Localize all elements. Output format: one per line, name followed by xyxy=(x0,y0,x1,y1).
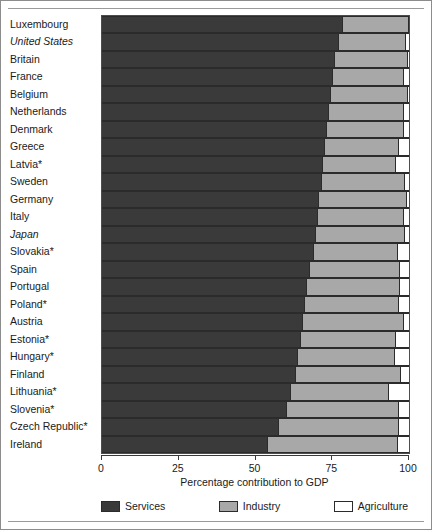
bar-segment-services[interactable] xyxy=(102,418,278,435)
bar-segment-services[interactable] xyxy=(102,261,309,278)
bar-segment-services[interactable] xyxy=(102,51,334,68)
bar-segment-industry[interactable] xyxy=(297,348,394,365)
bar-segment-agriculture[interactable] xyxy=(404,226,409,243)
bar-segment-industry[interactable] xyxy=(326,121,403,138)
bar-segment-industry[interactable] xyxy=(295,366,399,383)
bar-segment-industry[interactable] xyxy=(315,226,404,243)
bar-segment-industry[interactable] xyxy=(338,33,405,50)
bar-segment-industry[interactable] xyxy=(324,138,398,155)
bar-segment-agriculture[interactable] xyxy=(398,401,409,418)
bar-segment-industry[interactable] xyxy=(300,331,395,348)
bar-row[interactable] xyxy=(102,418,409,435)
bar-segment-agriculture[interactable] xyxy=(397,243,409,260)
bar-row[interactable] xyxy=(102,103,409,120)
bar-segment-services[interactable] xyxy=(102,278,306,295)
bar-row[interactable] xyxy=(102,366,409,383)
bar-segment-agriculture[interactable] xyxy=(398,296,409,313)
bar-row[interactable] xyxy=(102,51,409,68)
bar-segment-services[interactable] xyxy=(102,68,332,85)
bar-row[interactable] xyxy=(102,208,409,225)
bar-segment-agriculture[interactable] xyxy=(400,366,409,383)
bar-segment-services[interactable] xyxy=(102,348,297,365)
bar-segment-services[interactable] xyxy=(102,16,342,33)
bar-segment-agriculture[interactable] xyxy=(404,173,409,190)
bar-segment-services[interactable] xyxy=(102,156,322,173)
bar-segment-services[interactable] xyxy=(102,243,313,260)
bar-segment-agriculture[interactable] xyxy=(398,138,409,155)
bar-segment-agriculture[interactable] xyxy=(403,121,409,138)
bar-segment-industry[interactable] xyxy=(309,261,399,278)
bar-row[interactable] xyxy=(102,68,409,85)
bar-row[interactable] xyxy=(102,16,409,33)
bar-segment-industry[interactable] xyxy=(317,208,403,225)
bar-segment-services[interactable] xyxy=(102,313,302,330)
bar-segment-industry[interactable] xyxy=(278,418,397,435)
bar-segment-services[interactable] xyxy=(102,401,286,418)
bar-segment-agriculture[interactable] xyxy=(394,348,409,365)
bar-row[interactable] xyxy=(102,436,409,453)
bar-segment-services[interactable] xyxy=(102,191,318,208)
bar-segment-agriculture[interactable] xyxy=(407,51,409,68)
bar-row[interactable] xyxy=(102,156,409,173)
bar-row[interactable] xyxy=(102,278,409,295)
bar-segment-agriculture[interactable] xyxy=(399,278,409,295)
bar-row[interactable] xyxy=(102,191,409,208)
bar-row[interactable] xyxy=(102,348,409,365)
bar-segment-services[interactable] xyxy=(102,103,328,120)
bar-segment-agriculture[interactable] xyxy=(403,68,409,85)
bar-segment-agriculture[interactable] xyxy=(403,313,409,330)
bar-row[interactable] xyxy=(102,243,409,260)
bar-segment-agriculture[interactable] xyxy=(403,103,409,120)
bar-segment-agriculture[interactable] xyxy=(407,86,409,103)
bar-segment-services[interactable] xyxy=(102,331,300,348)
bar-row[interactable] xyxy=(102,383,409,400)
bar-segment-services[interactable] xyxy=(102,86,330,103)
bar-segment-agriculture[interactable] xyxy=(398,418,409,435)
bar-segment-agriculture[interactable] xyxy=(405,33,409,50)
bar-segment-industry[interactable] xyxy=(267,436,397,453)
bar-segment-services[interactable] xyxy=(102,208,317,225)
bar-segment-agriculture[interactable] xyxy=(395,156,409,173)
bar-segment-services[interactable] xyxy=(102,173,321,190)
bar-segment-industry[interactable] xyxy=(302,313,403,330)
bar-row[interactable] xyxy=(102,401,409,418)
bar-segment-agriculture[interactable] xyxy=(395,331,409,348)
bar-segment-services[interactable] xyxy=(102,436,267,453)
bar-segment-agriculture[interactable] xyxy=(397,436,409,453)
bar-segment-services[interactable] xyxy=(102,121,326,138)
bar-segment-services[interactable] xyxy=(102,33,338,50)
bar-row[interactable] xyxy=(102,121,409,138)
bar-segment-services[interactable] xyxy=(102,383,290,400)
bar-row[interactable] xyxy=(102,331,409,348)
bar-segment-industry[interactable] xyxy=(334,51,407,68)
bar-segment-agriculture[interactable] xyxy=(399,261,409,278)
bar-segment-services[interactable] xyxy=(102,366,295,383)
bar-row[interactable] xyxy=(102,296,409,313)
bar-segment-industry[interactable] xyxy=(330,86,407,103)
bar-row[interactable] xyxy=(102,313,409,330)
bar-segment-services[interactable] xyxy=(102,138,324,155)
bar-segment-industry[interactable] xyxy=(332,68,403,85)
bar-segment-industry[interactable] xyxy=(342,16,408,33)
bar-row[interactable] xyxy=(102,33,409,50)
bar-row[interactable] xyxy=(102,173,409,190)
bar-segment-industry[interactable] xyxy=(318,191,405,208)
bar-segment-agriculture[interactable] xyxy=(403,208,409,225)
bar-segment-services[interactable] xyxy=(102,296,304,313)
bar-segment-agriculture[interactable] xyxy=(388,383,409,400)
bar-segment-agriculture[interactable] xyxy=(408,16,409,33)
bar-segment-industry[interactable] xyxy=(304,296,398,313)
bar-segment-industry[interactable] xyxy=(306,278,399,295)
bar-segment-agriculture[interactable] xyxy=(406,191,409,208)
bar-segment-industry[interactable] xyxy=(328,103,403,120)
bar-segment-industry[interactable] xyxy=(313,243,397,260)
bar-segment-services[interactable] xyxy=(102,226,315,243)
bar-row[interactable] xyxy=(102,226,409,243)
bar-row[interactable] xyxy=(102,138,409,155)
bar-row[interactable] xyxy=(102,261,409,278)
bar-segment-industry[interactable] xyxy=(321,173,405,190)
bar-segment-industry[interactable] xyxy=(286,401,398,418)
bar-segment-industry[interactable] xyxy=(322,156,395,173)
bar-row[interactable] xyxy=(102,86,409,103)
bar-segment-industry[interactable] xyxy=(290,383,388,400)
